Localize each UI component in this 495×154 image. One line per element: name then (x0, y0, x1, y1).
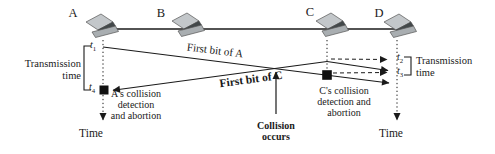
laptop-icon-a (86, 14, 119, 38)
t1-label: t1 (90, 40, 96, 51)
left-transmission-time-label: Transmission time (6, 58, 81, 83)
a-collision-note: A's collision detection and abortion (111, 88, 161, 122)
station-label-d: D (374, 7, 383, 21)
station-label-a: A (68, 7, 77, 21)
t2-label: t2 (397, 52, 403, 63)
t3-label: t3 (397, 66, 403, 77)
right-transmission-time-label: Transmission time (416, 55, 494, 80)
right-transmission-bracket (404, 57, 411, 75)
time-label-left: Time (79, 127, 103, 139)
a-collision-square (100, 86, 109, 95)
t2-dashed-line (331, 59, 387, 60)
t4-label: t4 (89, 82, 95, 93)
laptop-icon-d (384, 14, 417, 38)
collision-occurs-label: Collision occurs (257, 121, 295, 142)
csma-cd-collision-figure: A B C D t1 t4 t2 t3 Transmission time Tr… (0, 0, 495, 154)
station-label-c: C (306, 6, 314, 20)
station-label-b: B (157, 7, 165, 21)
laptop-icon-c (316, 13, 349, 37)
t3-dashed-line (333, 73, 387, 74)
laptop-icon-b (172, 13, 205, 37)
c-bit-right-line (327, 62, 388, 71)
time-label-right: Time (379, 127, 403, 139)
c-collision-square (322, 70, 332, 80)
c-collision-note: C's collision detection and abortion (317, 85, 371, 119)
